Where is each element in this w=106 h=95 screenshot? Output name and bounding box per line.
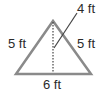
height-label: 4 ft xyxy=(77,2,95,15)
left-side-label: 5 ft xyxy=(8,37,26,50)
base-label: 6 ft xyxy=(43,78,61,91)
height-leader-line xyxy=(54,13,77,48)
right-side-label: 5 ft xyxy=(77,37,95,50)
